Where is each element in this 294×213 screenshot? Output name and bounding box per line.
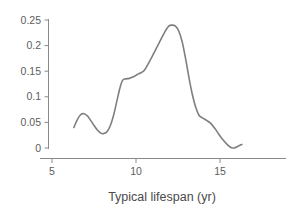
x-tick-label: 10 — [130, 165, 142, 177]
y-axis: 00.050.10.150.20.25 — [21, 14, 49, 154]
x-axis-title: Typical lifespan (yr) — [108, 190, 216, 204]
chart-canvas: 00.050.10.150.20.25 51015 Typical lifesp… — [0, 0, 294, 213]
y-tick-label: 0.15 — [21, 65, 42, 77]
x-tick-label: 5 — [49, 165, 55, 177]
y-tick-label: 0.1 — [26, 90, 41, 102]
density-chart: 00.050.10.150.20.25 51015 Typical lifesp… — [0, 0, 294, 213]
x-tick-labels: 51015 — [49, 165, 226, 177]
x-tick-label: 15 — [214, 165, 226, 177]
density-curve-line — [74, 25, 242, 148]
x-axis: 51015 — [40, 159, 286, 178]
x-tick-marks — [52, 159, 220, 164]
y-tick-label: 0.2 — [26, 39, 41, 51]
y-tick-marks — [45, 20, 49, 148]
y-tick-label: 0.05 — [21, 116, 42, 128]
y-tick-label: 0.25 — [21, 14, 42, 26]
y-tick-label: 0 — [35, 142, 41, 154]
y-tick-labels: 00.050.10.150.20.25 — [21, 14, 42, 154]
